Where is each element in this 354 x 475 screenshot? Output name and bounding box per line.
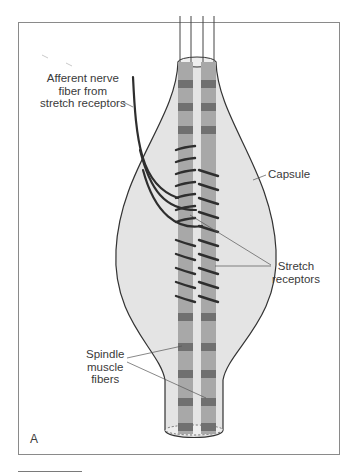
footnote-rule — [18, 471, 82, 472]
label-line: muscle — [86, 361, 124, 374]
stretch-receptors-label: Stretch receptors — [272, 260, 320, 285]
label-line: Spindle — [86, 348, 124, 361]
afferent-nerve-label: Afferent nerve fiber from stretch recept… — [40, 72, 126, 110]
panel-letter: A — [30, 433, 38, 446]
faint-marks — [42, 55, 72, 66]
label-line: Stretch — [272, 260, 320, 273]
label-line: stretch receptors — [40, 97, 126, 110]
label-line: Afferent nerve — [40, 72, 126, 85]
label-line: fibers — [86, 373, 124, 386]
label-line: receptors — [272, 273, 320, 286]
spindle-fibers-label: Spindle muscle fibers — [86, 348, 124, 386]
label-line: fiber from — [40, 85, 126, 98]
capsule-shape — [116, 62, 276, 438]
capsule-label: Capsule — [268, 168, 310, 181]
